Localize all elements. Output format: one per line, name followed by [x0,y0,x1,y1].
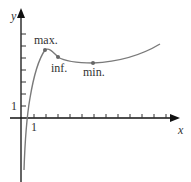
y-axis-label: y [10,9,17,23]
x-axis-label: x [177,123,184,137]
y-axis-arrow-icon [17,8,25,18]
max-point-marker [43,48,47,52]
function-graph: y x 1 1 max. inf. min. [0,0,191,182]
inflection-label: inf. [51,61,67,75]
max-label: max. [34,33,58,47]
x-tick-label-1: 1 [31,120,37,134]
min-label: min. [83,65,105,79]
inflection-point-marker [56,55,60,59]
y-ticks [21,34,26,106]
x-axis-arrow-icon [170,114,180,122]
y-tick-label-1: 1 [11,99,17,113]
